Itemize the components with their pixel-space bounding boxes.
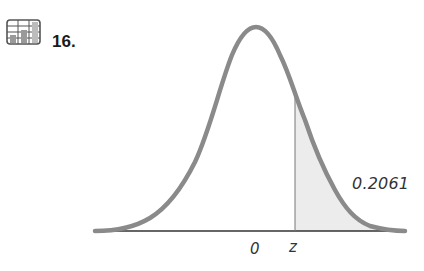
z-label: z: [289, 238, 297, 256]
normal-curve-figure: [0, 0, 424, 271]
normal-curve: [95, 27, 405, 231]
shaded-area-label: 0.2061: [352, 174, 409, 193]
mean-label: 0: [250, 240, 260, 258]
